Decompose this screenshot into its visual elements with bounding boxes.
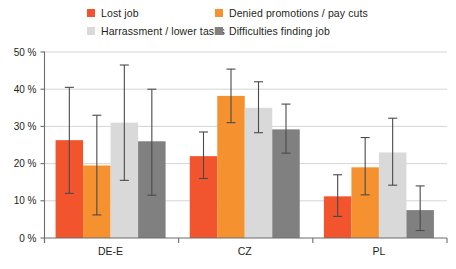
legend-label-harrassment: Harrassment / lower tasks xyxy=(101,26,225,37)
y-axis-tick-labels: 0 %10 %20 %30 %40 %50 % xyxy=(14,47,37,244)
x-axis-tick-labels: DE-ECZPL xyxy=(98,245,385,257)
y-axis-tick-label: 40 % xyxy=(14,84,37,95)
y-axis-tick-label: 0 % xyxy=(19,233,36,244)
legend-item-lost-job: Lost job xyxy=(87,8,139,19)
y-axis-tick-label: 30 % xyxy=(14,121,37,132)
y-axis-tick-label: 50 % xyxy=(14,47,37,58)
x-axis-tick-label: DE-E xyxy=(98,245,123,257)
chart-legend: Lost job Denied promotions / pay cuts Ha… xyxy=(0,0,456,41)
legend-item-harrassment: Harrassment / lower tasks xyxy=(87,26,225,37)
legend-item-denied-promotions: Denied promotions / pay cuts xyxy=(215,8,368,19)
legend-item-difficulties: Difficulties finding job xyxy=(215,26,330,37)
bar-chart-svg: 0 %10 %20 %30 %40 %50 % DE-ECZPL xyxy=(0,41,456,269)
legend-swatch-denied-promotions xyxy=(215,9,223,17)
legend-swatch-lost-job xyxy=(87,9,95,17)
y-axis-tick-label: 10 % xyxy=(14,195,37,206)
legend-label-difficulties: Difficulties finding job xyxy=(229,26,330,37)
legend-swatch-harrassment xyxy=(87,27,95,35)
bars-group xyxy=(56,96,434,238)
x-axis-tick-label: CZ xyxy=(238,245,253,257)
x-axis-tick-label: PL xyxy=(372,245,385,257)
legend-label-lost-job: Lost job xyxy=(101,8,139,19)
y-axis-tick-label: 20 % xyxy=(14,158,37,169)
legend-label-denied-promotions: Denied promotions / pay cuts xyxy=(229,8,368,19)
legend-swatch-difficulties xyxy=(215,27,223,35)
chart-plot-area: 0 %10 %20 %30 %40 %50 % DE-ECZPL xyxy=(0,41,456,269)
